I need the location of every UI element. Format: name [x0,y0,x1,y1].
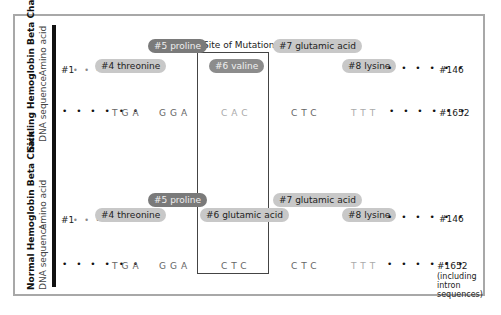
sickling-aa-7: #7 glutamic acid [273,39,362,53]
sickling-codon-7: CTC [291,108,321,118]
mutation-site-box [197,52,269,274]
sickling-codon-4: TGA [112,108,143,118]
sickling-title: Sickling Hemoglobin Beta Chain [26,0,36,152]
sickling-dna-label: DNA sequence [38,76,48,142]
normal-end-dna: #1652 [437,261,467,271]
section-divider-bar [52,25,56,287]
sickling-amino-label: Amino acid [38,26,48,76]
normal-title: Normal Hemoglobin Beta Chain [26,131,36,290]
normal-codon-7: CTC [291,261,321,271]
normal-aa-4: #4 threonine [95,208,166,222]
sickling-end-amino: #146 [439,65,464,75]
normal-codon-4: TGA [112,261,143,271]
normal-aa-7: #7 glutamic acid [273,193,362,207]
normal-codon-5: GGA [159,261,191,271]
sickling-codon-8: TTT [351,108,379,118]
normal-codon-6: CTC [221,261,251,271]
sickling-aa-4: #4 threonine [95,59,166,73]
sickling-codon-6-mutated: CAC [221,108,252,118]
sickling-end-dna: #1652 [439,108,469,118]
normal-dna-label: DNA sequence [38,224,48,290]
sickling-codon-5: GGA [159,108,191,118]
normal-aa-5: #5 proline [148,193,207,207]
normal-aa-6: #6 glutamic acid [200,208,289,222]
normal-end-amino: #146 [439,214,464,224]
normal-codon-8: TTT [351,261,379,271]
sickling-aa-6-mutated: #6 valine [209,59,264,73]
sickling-aa-5: #5 proline [148,39,207,53]
normal-amino-label: Amino acid [38,180,48,230]
mutation-site-label: Site of Mutation [203,40,274,50]
normal-end-dna-note: (including intron sequences) [437,272,481,299]
